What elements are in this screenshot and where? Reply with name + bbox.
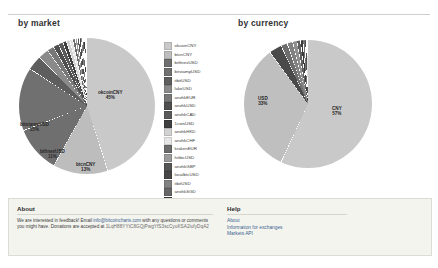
pie-by-market-wrap: okcoinCNY 45% bitstampUSD 15% btfinexUSD… <box>14 30 160 180</box>
legend-swatch-icon <box>164 51 172 59</box>
help-heading: Help <box>227 205 347 212</box>
legend-label: anxhkSGD <box>175 189 196 195</box>
legend-label: okcoinCNY <box>175 43 197 49</box>
legend-label: itbitUSD <box>175 78 191 84</box>
legend-swatch-icon <box>164 85 172 93</box>
footer-about-column: About We are interested in feedback! Ema… <box>17 205 213 231</box>
legend-item[interactable]: anxhkGBP <box>164 162 200 171</box>
slice-label-btcncny: btcnCNY 13% <box>76 162 95 173</box>
pie-by-currency-wrap: USD 33% CNY 57% <box>240 32 376 172</box>
about-divider <box>17 214 213 215</box>
legend-label: hitbtcUSD <box>175 155 195 161</box>
legend-item[interactable]: okcoinCNY <box>164 42 200 51</box>
legend-swatch-icon <box>164 94 172 102</box>
contact-email-link[interactable]: info@bitcoincharts.com <box>93 218 141 223</box>
legend-label: anxhkUSD <box>175 103 196 109</box>
legend-label: 1coinUSD <box>175 121 195 127</box>
slice-label-cny: CNY 57% <box>332 106 342 117</box>
legend-label: anxhkCHF <box>175 138 196 144</box>
legend-item[interactable]: anxhkCAD <box>164 111 200 120</box>
legend-swatch-icon <box>164 59 172 67</box>
about-line1-post: with any <box>141 218 159 223</box>
about-line1-pre: We are interested in feedback! Email <box>17 218 93 223</box>
page-root: by market okcoinCNY 45% bitstampUSD 15% … <box>0 0 438 268</box>
legend-item[interactable]: lakeUSD <box>164 85 200 94</box>
legend-item[interactable]: anxhkSGD <box>164 188 200 197</box>
legend-item[interactable]: itbitUSD <box>164 180 200 189</box>
legend-swatch-icon <box>164 68 172 76</box>
chart-title-by-currency: by currency <box>238 18 434 28</box>
help-link-markets-api[interactable]: Markets API <box>227 231 347 238</box>
footer-panel: About We are interested in feedback! Ema… <box>8 198 432 256</box>
legend-label: bitfinexUSD <box>175 60 198 66</box>
legend-item[interactable]: anxhkUSD <box>164 102 200 111</box>
legend-label: anxhkGBP <box>175 164 196 170</box>
legend-item[interactable]: itbitUSD <box>164 76 200 85</box>
legend-item[interactable]: bitfinexUSD <box>164 59 200 68</box>
legend-swatch-icon <box>164 120 172 128</box>
legend-swatch-icon <box>164 102 172 110</box>
footer-help-column: Help About Information for exchanges Mar… <box>227 205 347 238</box>
slice-label-bitstampusd: bitstampUSD 15% <box>20 122 49 133</box>
help-divider <box>227 214 347 215</box>
legend-swatch-icon <box>164 111 172 119</box>
legend-swatch-icon <box>164 77 172 85</box>
legend-item[interactable]: localbtcUSD <box>164 171 200 180</box>
legend-item[interactable]: 1coinUSD <box>164 119 200 128</box>
chart-title-by-market: by market <box>18 18 220 28</box>
charts-region: by market okcoinCNY 45% bitstampUSD 15% … <box>0 18 438 196</box>
legend-label: lakeUSD <box>175 86 192 92</box>
legend-item[interactable]: krakenEUR <box>164 145 200 154</box>
legend-swatch-icon <box>164 128 172 136</box>
legend-swatch-icon <box>164 163 172 171</box>
about-text: We are interested in feedback! Email inf… <box>17 218 213 231</box>
slice-label-usd: USD 33% <box>258 96 268 107</box>
chart-by-market: by market okcoinCNY 45% bitstampUSD 15% … <box>8 18 220 30</box>
legend-item[interactable]: anxhkHKD <box>164 128 200 137</box>
legend-swatch-icon <box>164 188 172 196</box>
legend-label: itbitUSD <box>175 181 191 187</box>
legend-item[interactable]: hitbtcUSD <box>164 154 200 163</box>
chart-by-currency: by currency USD 33% CNY 57% CNYUSDEURGBP… <box>228 18 434 30</box>
legend-item[interactable]: anxhkCHF <box>164 137 200 146</box>
legend-label: btcnCNY <box>175 52 193 58</box>
legend-label: localbtcUSD <box>175 172 199 178</box>
legend-label: anxhkEUR <box>175 95 196 101</box>
help-link-information-for-exchanges[interactable]: Information for exchanges <box>227 225 347 232</box>
legend-swatch-icon <box>164 42 172 50</box>
header-divider <box>8 14 430 15</box>
legend-swatch-icon <box>164 171 172 179</box>
help-link-about[interactable]: About <box>227 218 347 225</box>
legend-swatch-icon <box>164 145 172 153</box>
slice-label-okcoincny: okcoinCNY 45% <box>98 90 123 101</box>
legend-label: anxhkCAD <box>175 112 196 118</box>
donation-address: 1LqH88YYtC8GQjPwgYfS3scCyuKSA2iufyDqA2 <box>106 224 209 229</box>
legend-item[interactable]: btcnCNY <box>164 51 200 60</box>
legend-swatch-icon <box>164 137 172 145</box>
legend-label: bitstampUSD <box>175 69 201 75</box>
legend-label: krakenEUR <box>175 146 197 152</box>
legend-swatch-icon <box>164 154 172 162</box>
legend-swatch-icon <box>164 180 172 188</box>
legend-item[interactable]: anxhkEUR <box>164 94 200 103</box>
legend-label: anxhkHKD <box>175 129 196 135</box>
slice-label-bitfinexusd: btfinexUSD 11% <box>40 149 65 160</box>
legend-item[interactable]: bitstampUSD <box>164 68 200 77</box>
about-heading: About <box>17 205 213 212</box>
